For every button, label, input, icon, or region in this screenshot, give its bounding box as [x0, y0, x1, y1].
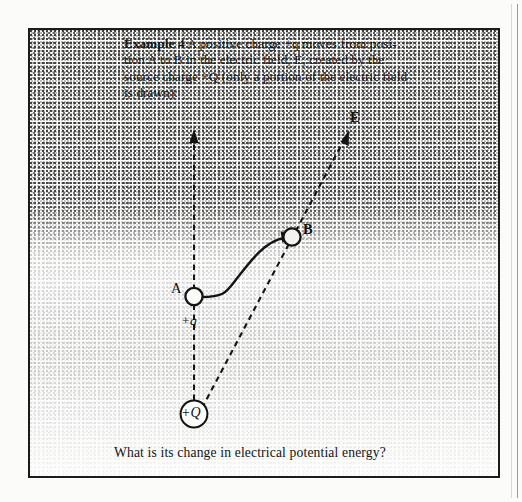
field-line-diagonal: [202, 130, 349, 408]
page-edge-rule-inner: [511, 4, 512, 498]
problem-statement: Example 4 A positive charge +q moves fro…: [124, 36, 434, 102]
field-label: E: [350, 109, 360, 126]
figure-frame: A B E +q +Q Example 4 A positive charge …: [28, 28, 500, 478]
scanned-page: A B E +q +Q Example 4 A positive charge …: [0, 0, 522, 502]
question-text: What is its change in electrical potenti…: [114, 445, 386, 461]
problem-line-2: tion A to B in the electric field, E, cr…: [124, 52, 434, 68]
problem-lead-label: Example 4: [124, 36, 185, 51]
page-edge-rule-outer: [517, 4, 518, 498]
point-a-marker: [185, 288, 202, 305]
problem-line-1-rest: A positive charge +q moves from posi-: [185, 36, 397, 51]
problem-line-4: is drawn):: [124, 85, 434, 101]
problem-line-3: source charge +Q (only a portion of the …: [124, 69, 434, 85]
charge-path-a-to-b: [201, 231, 294, 297]
problem-line-1: Example 4 A positive charge +q moves fro…: [124, 36, 434, 52]
point-b-label: B: [303, 221, 313, 238]
field-line-vertical: [189, 129, 198, 410]
test-charge-label: +q: [181, 313, 197, 329]
point-b-marker: [283, 228, 300, 245]
source-charge-label: +Q: [181, 405, 201, 421]
point-a-label: A: [171, 280, 181, 297]
